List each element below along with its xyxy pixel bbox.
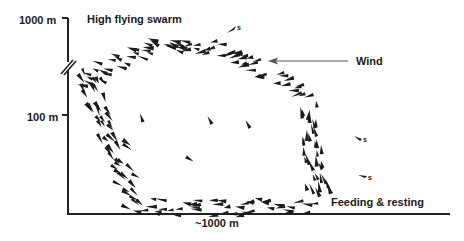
x-axis: ~1000 m <box>67 214 450 229</box>
straggler-label: s <box>237 24 241 31</box>
high-flying-swarm-label: High flying swarm <box>87 13 182 25</box>
wind-label: Wind <box>356 55 383 67</box>
swarm-insects <box>76 38 333 217</box>
straggler-insects: s s s <box>227 24 372 181</box>
y-axis-top-label: 1000 m <box>19 14 57 26</box>
feeding-resting-label: Feeding & resting <box>331 196 424 208</box>
straggler-label: s <box>368 174 372 181</box>
y-axis-mid-label: 100 m <box>27 111 58 123</box>
straggler-label: s <box>363 136 367 143</box>
y-axis: 1000 m 100 m <box>19 14 76 214</box>
x-axis-label: ~1000 m <box>195 217 239 229</box>
wind-arrow-icon <box>268 58 348 65</box>
swarm-flight-diagram: 1000 m 100 m ~1000 m High flying swarm W… <box>0 0 464 241</box>
